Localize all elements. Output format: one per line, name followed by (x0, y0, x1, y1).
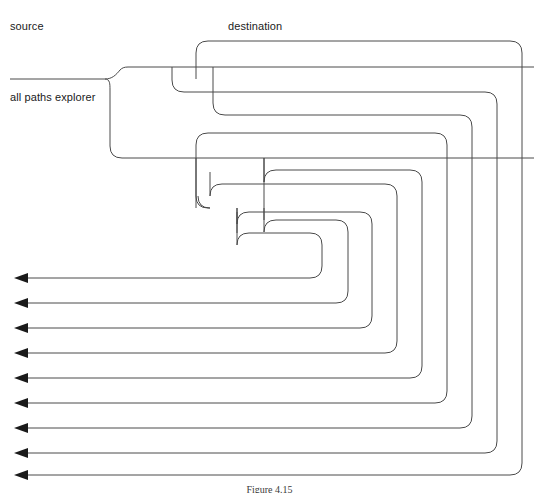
branch-up-curve (105, 67, 534, 79)
loop-6 (28, 158, 397, 353)
loop-8 (28, 208, 348, 303)
all-paths-explorer-diagram (0, 0, 539, 493)
all-paths-explorer-label: all paths explorer (10, 91, 96, 103)
loop-3 (28, 67, 472, 428)
arrowhead-1 (14, 273, 28, 283)
inner-connector-stubs (196, 158, 264, 233)
loop-5 (28, 158, 422, 378)
arrowhead-9 (14, 470, 28, 480)
arrowhead-4 (14, 348, 28, 358)
loop-3-rail (28, 67, 472, 428)
loop-1-outermost (28, 41, 522, 475)
loop-9-innermost (28, 212, 322, 278)
arrowhead-5 (14, 373, 28, 383)
figure-caption: Figure 4.15 (0, 484, 539, 493)
source-feeder-group (10, 67, 534, 158)
arrowhead-7 (14, 423, 28, 433)
loop-8-rail (28, 208, 348, 303)
arrowhead-8 (14, 448, 28, 458)
loop-2 (28, 67, 497, 453)
arrowhead-3 (14, 323, 28, 333)
loop-5-rail (28, 158, 422, 378)
loop-1-top-rail (28, 41, 522, 475)
arrowhead-6 (14, 398, 28, 408)
loop-7 (28, 208, 372, 328)
loop-2-rail (28, 67, 497, 453)
loop-9-rail (28, 212, 322, 278)
destination-label: destination (228, 20, 282, 32)
arrowheads-group (14, 273, 28, 480)
source-label: source (10, 20, 44, 32)
loop-4 (28, 133, 447, 403)
loop-7-rail (28, 208, 372, 328)
loop-4-rail (28, 133, 447, 403)
loop-6-rail (196, 158, 210, 208)
arrowhead-2 (14, 298, 28, 308)
figure-canvas: source destination all paths explorer Fi… (0, 0, 539, 493)
